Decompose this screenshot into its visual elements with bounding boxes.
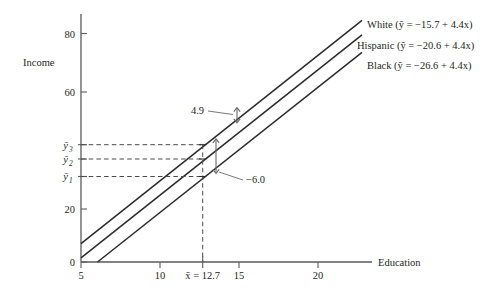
x-tick-label-15: 15 xyxy=(234,270,245,281)
axes-group xyxy=(81,14,372,262)
annotation-gap-white-hispanic: 4.9 xyxy=(191,105,240,123)
y-mean-label-ybar2-base: ȳ xyxy=(62,154,68,165)
y-axis-label: Income xyxy=(23,57,55,68)
y-tick-label-80: 80 xyxy=(65,29,76,40)
y-mean-label-ybar2: ȳ 2 xyxy=(62,154,73,168)
legend-item-black: Black (ŷ = −26.6 + 4.4x) xyxy=(367,60,472,72)
y-mean-label-ybar3: ȳ 3 xyxy=(62,140,73,154)
regression-lines-figure: 80 60 20 0 ȳ 3 ȳ 2 ȳ 1 xyxy=(0,0,486,296)
y-mean-label-ybar3-sub: 3 xyxy=(68,145,73,154)
x-tick-group: 5 10 x̄ = 12.7 15 20 xyxy=(78,256,323,281)
regression-line-hispanic xyxy=(81,35,362,258)
annotation-gap-hispanic-black: −6.0 xyxy=(213,139,265,185)
chart-canvas: 80 60 20 0 ȳ 3 ȳ 2 ȳ 1 xyxy=(0,0,486,296)
x-axis-label: Education xyxy=(378,257,421,268)
gap-leader-4-9 xyxy=(208,111,233,115)
x-tick-label-20: 20 xyxy=(313,270,324,281)
x-tick-label-10: 10 xyxy=(155,270,166,281)
y-mean-label-ybar1-sub: 1 xyxy=(69,176,73,185)
y-tick-label-60: 60 xyxy=(65,87,76,98)
y-mean-tick-group: ȳ 3 ȳ 2 ȳ 1 xyxy=(62,140,87,186)
y-mean-label-ybar1: ȳ 1 xyxy=(62,171,72,185)
regression-lines-group xyxy=(81,20,362,262)
gap-label-6-0: −6.0 xyxy=(246,174,265,185)
legend-item-white: White (ŷ = −15.7 + 4.4x) xyxy=(367,19,473,31)
legend-group: White (ŷ = −15.7 + 4.4x) Hispanic (ŷ = −… xyxy=(357,19,475,72)
y-tick-label-0: 0 xyxy=(70,257,75,268)
gap-leader-6-0 xyxy=(219,172,243,180)
gap-label-4-9: 4.9 xyxy=(191,105,204,116)
y-mean-label-ybar2-sub: 2 xyxy=(69,159,73,168)
y-mean-label-ybar1-base: ȳ xyxy=(62,171,68,182)
regression-line-black xyxy=(98,52,363,262)
y-mean-label-ybar3-base: ȳ xyxy=(62,140,68,151)
y-tick-label-20: 20 xyxy=(65,204,76,215)
regression-line-white xyxy=(81,20,362,243)
legend-item-hispanic: Hispanic (ŷ = −20.6 + 4.4x) xyxy=(357,40,475,52)
x-tick-label-5: 5 xyxy=(78,270,83,281)
x-tick-label-12-7: x̄ = 12.7 xyxy=(185,270,220,281)
